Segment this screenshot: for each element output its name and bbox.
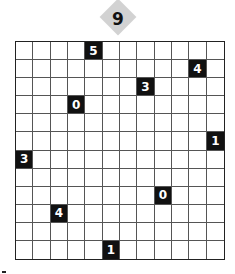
grid-cell[interactable] — [16, 132, 33, 150]
grid-cell[interactable] — [120, 42, 137, 60]
grid-cell[interactable] — [120, 241, 137, 259]
grid-cell[interactable] — [51, 187, 68, 205]
grid-cell[interactable] — [68, 169, 85, 187]
grid-cell[interactable] — [68, 241, 85, 259]
grid-cell[interactable] — [33, 96, 50, 114]
grid-cell[interactable] — [155, 78, 172, 96]
grid-cell[interactable] — [189, 187, 206, 205]
grid-cell[interactable] — [51, 42, 68, 60]
grid-cell[interactable] — [103, 205, 120, 223]
grid-cell[interactable] — [51, 114, 68, 132]
grid-cell[interactable] — [137, 132, 154, 150]
grid-cell[interactable] — [207, 60, 224, 78]
grid-cell[interactable] — [120, 151, 137, 169]
grid-cell[interactable] — [155, 60, 172, 78]
grid-cell[interactable] — [103, 132, 120, 150]
grid-cell[interactable] — [68, 114, 85, 132]
grid-cell[interactable] — [172, 42, 189, 60]
grid-cell[interactable] — [172, 205, 189, 223]
grid-cell[interactable] — [16, 169, 33, 187]
grid-cell[interactable] — [85, 60, 102, 78]
grid-cell[interactable] — [155, 151, 172, 169]
grid-cell[interactable] — [207, 96, 224, 114]
grid-cell[interactable] — [137, 169, 154, 187]
grid-cell[interactable] — [155, 241, 172, 259]
grid-cell[interactable] — [103, 169, 120, 187]
grid-cell[interactable] — [68, 60, 85, 78]
grid-cell[interactable] — [207, 223, 224, 241]
grid-cell[interactable] — [155, 42, 172, 60]
grid-cell[interactable] — [16, 42, 33, 60]
grid-cell[interactable] — [172, 96, 189, 114]
grid-cell[interactable] — [85, 223, 102, 241]
grid-cell[interactable] — [137, 241, 154, 259]
grid-cell[interactable] — [68, 223, 85, 241]
grid-cell[interactable] — [33, 60, 50, 78]
grid-cell[interactable] — [120, 96, 137, 114]
grid-cell[interactable] — [189, 132, 206, 150]
grid-cell[interactable] — [103, 78, 120, 96]
grid-cell[interactable] — [155, 96, 172, 114]
grid-cell[interactable] — [189, 96, 206, 114]
grid-cell[interactable] — [155, 205, 172, 223]
grid-cell[interactable] — [33, 205, 50, 223]
grid-cell[interactable] — [120, 205, 137, 223]
grid-cell[interactable] — [33, 114, 50, 132]
grid-cell[interactable] — [51, 78, 68, 96]
grid-cell[interactable] — [137, 60, 154, 78]
grid-cell[interactable] — [16, 114, 33, 132]
grid-cell[interactable] — [120, 114, 137, 132]
grid-cell[interactable] — [68, 132, 85, 150]
grid-cell[interactable] — [51, 60, 68, 78]
grid-cell[interactable] — [33, 78, 50, 96]
grid-cell[interactable] — [85, 169, 102, 187]
grid-cell[interactable] — [85, 132, 102, 150]
grid-cell[interactable] — [120, 169, 137, 187]
grid-cell[interactable] — [207, 169, 224, 187]
grid-cell[interactable] — [51, 151, 68, 169]
grid-cell[interactable] — [16, 187, 33, 205]
grid-cell[interactable] — [172, 241, 189, 259]
grid-cell[interactable] — [137, 42, 154, 60]
grid-cell[interactable] — [155, 223, 172, 241]
grid-cell[interactable] — [137, 151, 154, 169]
grid-cell[interactable] — [120, 187, 137, 205]
grid-cell[interactable] — [155, 114, 172, 132]
grid-cell[interactable] — [68, 151, 85, 169]
grid-cell[interactable] — [33, 223, 50, 241]
grid-cell[interactable] — [172, 169, 189, 187]
grid-cell[interactable] — [103, 223, 120, 241]
grid-cell[interactable] — [68, 42, 85, 60]
grid-cell[interactable] — [33, 132, 50, 150]
grid-cell[interactable] — [172, 187, 189, 205]
grid-cell[interactable] — [85, 205, 102, 223]
grid-cell[interactable] — [85, 114, 102, 132]
grid-cell[interactable] — [207, 42, 224, 60]
grid-cell[interactable] — [16, 60, 33, 78]
grid-cell[interactable] — [33, 151, 50, 169]
grid-cell[interactable] — [51, 241, 68, 259]
grid-cell[interactable] — [172, 223, 189, 241]
grid-cell[interactable] — [172, 151, 189, 169]
grid-cell[interactable] — [189, 205, 206, 223]
grid-cell[interactable] — [85, 187, 102, 205]
grid-cell[interactable] — [207, 205, 224, 223]
grid-cell[interactable] — [85, 151, 102, 169]
grid-cell[interactable] — [85, 78, 102, 96]
grid-cell[interactable] — [51, 96, 68, 114]
grid-cell[interactable] — [33, 241, 50, 259]
grid-cell[interactable] — [16, 78, 33, 96]
grid-cell[interactable] — [172, 60, 189, 78]
grid-cell[interactable] — [103, 42, 120, 60]
grid-cell[interactable] — [207, 187, 224, 205]
grid-cell[interactable] — [137, 96, 154, 114]
grid-cell[interactable] — [85, 241, 102, 259]
grid-cell[interactable] — [189, 151, 206, 169]
grid-cell[interactable] — [33, 169, 50, 187]
grid-cell[interactable] — [51, 132, 68, 150]
grid-cell[interactable] — [189, 42, 206, 60]
grid-cell[interactable] — [172, 132, 189, 150]
grid-cell[interactable] — [16, 96, 33, 114]
grid-cell[interactable] — [172, 114, 189, 132]
grid-cell[interactable] — [33, 42, 50, 60]
